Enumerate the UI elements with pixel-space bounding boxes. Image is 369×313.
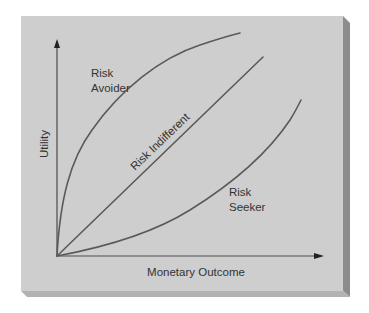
panel-background	[21, 16, 343, 291]
risk-avoider-label-line1: Risk	[91, 67, 114, 79]
x-axis-label: Monetary Outcome	[147, 266, 245, 278]
panel-shadow-bottom	[21, 291, 350, 297]
risk-seeker-label-line2: Seeker	[229, 201, 266, 213]
y-axis-label: Utility	[38, 130, 50, 158]
risk-seeker-label-line1: Risk	[229, 186, 252, 198]
utility-curves-figure: Utility Monetary Outcome Risk Avoider Ri…	[0, 0, 369, 313]
panel-shadow-right	[343, 16, 350, 297]
risk-avoider-label-line2: Avoider	[91, 82, 130, 94]
